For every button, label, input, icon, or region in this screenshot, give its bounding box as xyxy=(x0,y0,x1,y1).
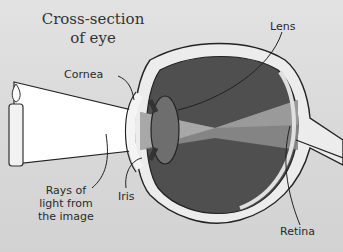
label-cornea: Cornea xyxy=(64,68,103,81)
candle-icon xyxy=(9,104,23,166)
title-line-1: Cross-section xyxy=(28,10,158,29)
label-retina: Retina xyxy=(280,225,315,238)
eye-diagram: Cross-section of eye Cornea Lens Iris Re… xyxy=(0,0,343,252)
title-line-2: of eye xyxy=(28,29,158,48)
rays-line-1: Rays of xyxy=(38,184,94,197)
diagram-title: Cross-section of eye xyxy=(28,10,158,48)
label-rays-of-light: Rays of light from the image xyxy=(38,184,94,223)
label-lens: Lens xyxy=(270,20,295,33)
cornea-leader xyxy=(118,76,134,100)
rays-line-2: light from xyxy=(38,197,94,210)
rays-line-3: the image xyxy=(38,210,94,223)
label-iris: Iris xyxy=(118,190,135,203)
light-beam xyxy=(14,82,140,164)
